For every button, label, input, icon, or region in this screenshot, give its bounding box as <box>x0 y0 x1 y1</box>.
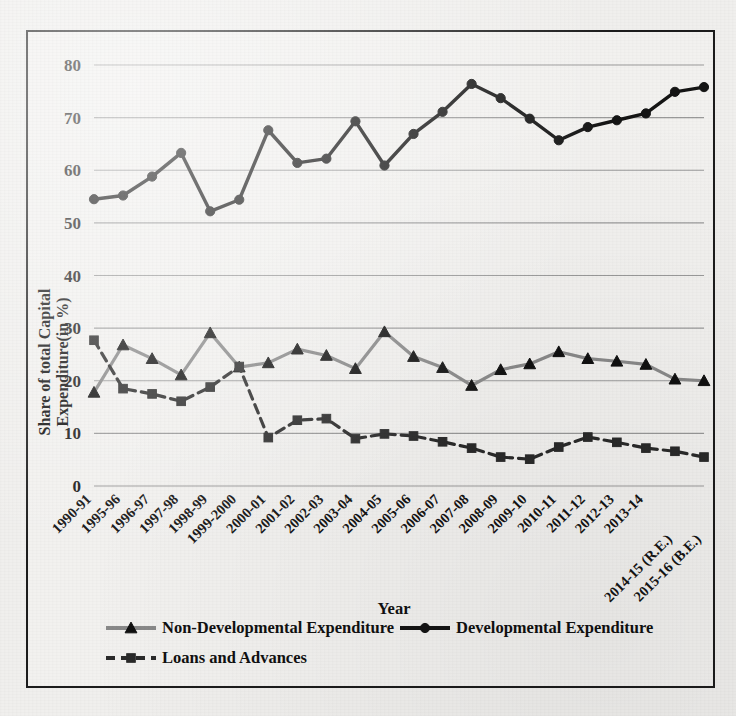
data-point-0-10 <box>379 326 391 337</box>
data-point-2-13 <box>467 444 476 453</box>
y-tick-label-40: 40 <box>64 267 81 286</box>
data-point-1-13 <box>467 79 476 88</box>
data-point-2-18 <box>613 438 622 447</box>
data-point-1-legend <box>420 623 429 632</box>
legend-label-2: Loans and Advances <box>162 648 307 667</box>
data-point-1-7 <box>293 158 302 167</box>
chart-frame: 01020304050607080Share of total CapitalE… <box>26 30 715 688</box>
y-axis-ticks: 01020304050607080 <box>64 56 81 496</box>
data-point-2-10 <box>380 430 389 439</box>
data-point-1-0 <box>89 195 98 204</box>
data-point-1-10 <box>380 161 389 170</box>
data-point-2-8 <box>322 414 331 423</box>
data-point-1-17 <box>583 122 592 131</box>
y-tick-label-60: 60 <box>64 161 81 180</box>
data-point-2-19 <box>642 444 651 453</box>
series-line-1 <box>94 84 704 211</box>
data-point-2-4 <box>206 383 215 392</box>
legend-label-0: Non-Developmental Expenditure <box>162 618 394 637</box>
data-point-2-20 <box>671 447 680 456</box>
data-point-2-0 <box>90 336 99 345</box>
data-point-1-8 <box>322 154 331 163</box>
data-point-2-21 <box>700 453 709 462</box>
data-point-1-12 <box>438 107 447 116</box>
data-point-1-1 <box>118 191 127 200</box>
data-point-2-11 <box>409 432 418 441</box>
series-developmental-expenditure <box>89 79 708 216</box>
data-point-2-5 <box>235 362 244 371</box>
x-axis-title: Year <box>378 599 411 618</box>
legend-item-2[interactable]: Loans and Advances <box>106 648 307 667</box>
legend-label-1: Developmental Expenditure <box>456 618 653 637</box>
y-axis-title-ylabel_line2: Expenditure(in %) <box>54 297 72 426</box>
y-tick-label-80: 80 <box>64 56 81 75</box>
plot-area: 01020304050607080Share of total CapitalE… <box>28 32 713 686</box>
legend-item-0[interactable]: Non-Developmental Expenditure <box>106 618 394 637</box>
data-point-1-20 <box>670 87 679 96</box>
data-point-1-16 <box>554 136 563 145</box>
data-point-1-2 <box>147 172 156 181</box>
data-point-1-9 <box>351 117 360 126</box>
data-point-2-2 <box>148 390 157 399</box>
data-point-2-17 <box>584 433 593 442</box>
x-axis-ticks: 1990-911995-961996-971997-981998-991999-… <box>49 491 705 606</box>
data-point-2-7 <box>293 416 302 425</box>
data-point-2-9 <box>351 434 360 443</box>
data-point-1-5 <box>235 195 244 204</box>
data-point-1-11 <box>409 129 418 138</box>
data-point-2-16 <box>554 443 563 452</box>
series-line-0 <box>94 332 704 393</box>
data-point-2-1 <box>119 384 128 393</box>
data-point-1-14 <box>496 94 505 103</box>
data-point-1-21 <box>699 83 708 92</box>
data-point-1-4 <box>206 207 215 216</box>
line-chart-svg: 01020304050607080Share of total CapitalE… <box>28 32 717 690</box>
legend-item-1[interactable]: Developmental Expenditure <box>400 618 653 637</box>
data-point-0-1 <box>117 339 129 350</box>
data-point-1-15 <box>525 114 534 123</box>
data-point-2-14 <box>496 453 505 462</box>
gridlines <box>94 65 704 486</box>
series-non-developmental-expenditure <box>88 326 710 397</box>
data-point-2-6 <box>264 433 273 442</box>
data-point-2-12 <box>438 437 447 446</box>
data-point-2-15 <box>525 455 534 464</box>
data-point-1-19 <box>641 109 650 118</box>
y-axis-title: Share of total CapitalExpenditure(in %) <box>36 288 72 435</box>
y-tick-label-70: 70 <box>64 109 81 128</box>
data-point-1-6 <box>264 126 273 135</box>
legend: Non-Developmental ExpenditureDevelopment… <box>106 618 653 667</box>
data-point-2-3 <box>177 397 186 406</box>
series-loans-and-advances <box>90 336 709 464</box>
data-point-2-legend <box>127 654 136 663</box>
y-tick-label-50: 50 <box>64 214 81 233</box>
data-point-1-3 <box>177 148 186 157</box>
y-axis-title-ylabel_line1: Share of total Capital <box>36 288 54 435</box>
data-point-1-18 <box>612 116 621 125</box>
